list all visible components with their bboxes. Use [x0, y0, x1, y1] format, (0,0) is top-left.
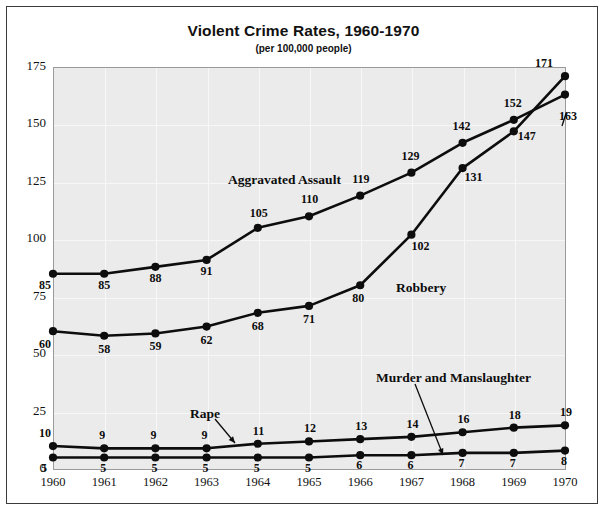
- data-point-value-label: 171: [535, 56, 553, 71]
- data-point-value-label: 102: [411, 239, 429, 254]
- data-point-value-label: 68: [252, 319, 264, 334]
- chart-title: Violent Crime Rates, 1960-1970: [0, 22, 607, 40]
- data-point-value-label: 152: [504, 96, 522, 111]
- data-point-value-label: 129: [401, 149, 419, 164]
- y-axis-tick-label: 175: [2, 58, 46, 74]
- data-point-value-label: 58: [98, 342, 110, 357]
- data-point-value-label: 105: [250, 206, 268, 221]
- chart-subtitle: (per 100,000 people): [0, 43, 607, 54]
- y-axis-tick-label: 25: [2, 403, 46, 419]
- data-point-value-label: 5: [305, 461, 311, 476]
- series-label-murder-and-manslaughter: Murder and Manslaughter: [376, 370, 531, 386]
- data-point-value-label: 14: [406, 417, 418, 432]
- data-point-value-label: 142: [453, 119, 471, 134]
- data-point-value-label: 9: [99, 428, 105, 443]
- data-point-value-label: 85: [39, 278, 51, 293]
- data-point-value-label: 6: [407, 458, 413, 473]
- gridline-vertical: [310, 68, 311, 469]
- data-point-value-label: 5: [203, 461, 209, 476]
- data-point-value-label: 19: [560, 405, 572, 420]
- data-point-value-label: 12: [304, 421, 316, 436]
- y-axis-tick-label: 0: [2, 460, 46, 476]
- gridline-vertical: [259, 68, 260, 469]
- gridline-vertical: [361, 68, 362, 469]
- data-point-value-label: 80: [352, 291, 364, 306]
- x-axis-tick-label: 1970: [535, 475, 595, 490]
- data-point-value-label: 147: [518, 129, 536, 144]
- data-point-value-label: 131: [465, 170, 483, 185]
- data-point-value-label: 9: [150, 428, 156, 443]
- y-axis-tick-label: 150: [2, 115, 46, 131]
- data-point-value-label: 91: [201, 264, 213, 279]
- data-point-value-label: 6: [356, 458, 362, 473]
- data-point-value-label: 8: [561, 454, 567, 469]
- data-point-value-label: 9: [202, 428, 208, 443]
- data-point-value-label: 10: [39, 426, 51, 441]
- data-point-value-label: 7: [459, 456, 465, 471]
- series-label-rape: Rape: [190, 406, 220, 422]
- gridline-vertical: [156, 68, 157, 469]
- series-label-robbery: Robbery: [396, 280, 446, 296]
- gridline-vertical: [105, 68, 106, 469]
- data-point-value-label: 119: [352, 172, 369, 187]
- data-point-value-label: 13: [355, 419, 367, 434]
- y-axis-tick-label: 125: [2, 173, 46, 189]
- gridline-vertical: [412, 68, 413, 469]
- data-point-value-label: 59: [149, 339, 161, 354]
- data-point-value-label: 18: [509, 408, 521, 423]
- data-point-value-label: 85: [98, 278, 110, 293]
- data-point-value-label: 5: [100, 461, 106, 476]
- data-point-value-label: 62: [201, 333, 213, 348]
- data-point-value-label: 5: [151, 461, 157, 476]
- data-point-value-label: 11: [253, 424, 264, 439]
- chart-figure: Violent Crime Rates, 1960-1970 (per 100,…: [0, 0, 607, 512]
- data-point-value-label: 110: [301, 192, 318, 207]
- data-point-value-label: 60: [39, 337, 51, 352]
- data-point-value-label: 7: [510, 456, 516, 471]
- series-label-aggravated-assault: Aggravated Assault: [228, 172, 341, 188]
- y-axis-tick-label: 100: [2, 230, 46, 246]
- data-point-value-label: 88: [149, 271, 161, 286]
- data-point-value-label: 5: [41, 461, 47, 476]
- plot-area: [53, 67, 566, 470]
- data-point-value-label: 5: [254, 461, 260, 476]
- data-point-value-label: 163: [559, 109, 577, 124]
- data-point-value-label: 16: [458, 412, 470, 427]
- data-point-value-label: 71: [303, 312, 315, 327]
